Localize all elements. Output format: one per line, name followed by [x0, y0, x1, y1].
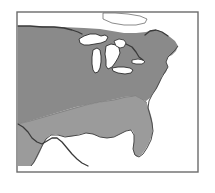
map-canvas	[0, 0, 215, 193]
lake-michigan	[92, 48, 101, 73]
map-figure	[0, 0, 215, 193]
